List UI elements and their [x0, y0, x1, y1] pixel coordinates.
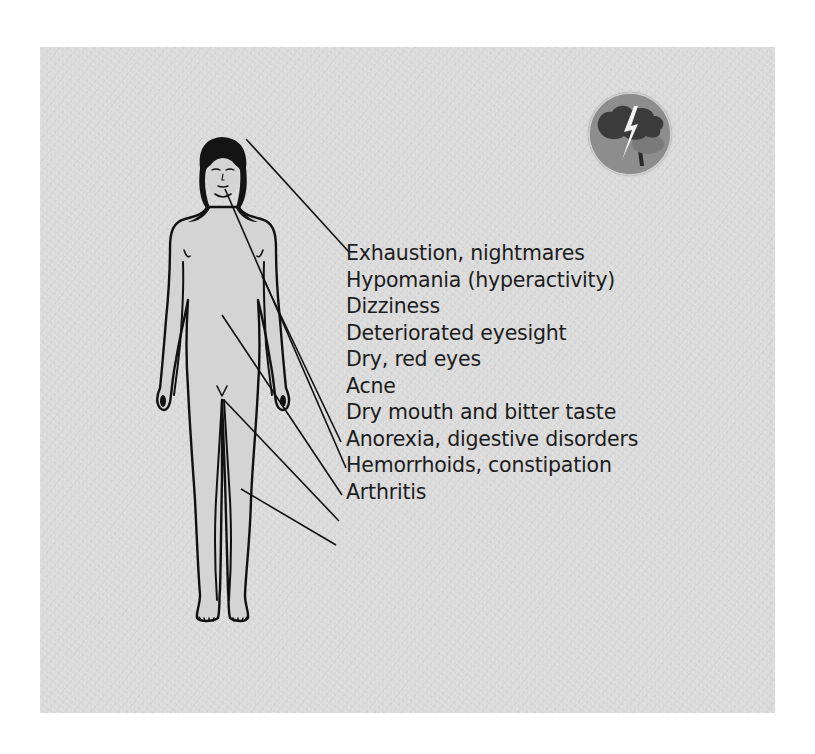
symptom-label: Deteriorated eyesight	[346, 320, 638, 347]
storm-badge	[588, 92, 672, 176]
face	[207, 158, 239, 198]
symptom-label: Dizziness	[346, 293, 638, 320]
symptom-label: Exhaustion, nightmares	[346, 240, 638, 267]
symptom-label: Hemorrhoids, constipation	[346, 452, 638, 479]
symptom-label: Hypomania (hyperactivity)	[346, 267, 638, 294]
storm-cloud-lightning-icon	[588, 92, 672, 176]
symptom-list: Exhaustion, nightmares Hypomania (hypera…	[346, 240, 638, 505]
symptom-label: Anorexia, digestive disorders	[346, 426, 638, 453]
symptom-label: Arthritis	[346, 479, 638, 506]
human-figure	[157, 207, 289, 621]
symptom-label: Dry, red eyes	[346, 346, 638, 373]
leader-line-thigh	[241, 489, 336, 545]
symptom-label: Acne	[346, 373, 638, 400]
symptom-label: Dry mouth and bitter taste	[346, 399, 638, 426]
